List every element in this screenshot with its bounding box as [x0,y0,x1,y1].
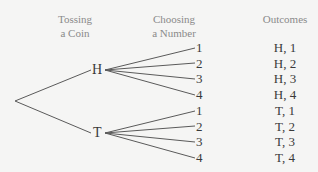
header-stage2-line2: a Number [146,26,202,40]
header-stage1-line1: Tossing [52,12,98,26]
outcome-h-4: H, 4 [260,87,310,102]
branch-root-to-h [15,70,91,101]
tree-diagram: Tossing a Coin Choosing a Number Outcome… [0,0,318,172]
branch-h-to-3 [105,70,195,79]
outcome-t-4: T, 4 [260,150,310,165]
number-t-1: 1 [196,103,203,118]
header-tossing-a-coin: Tossing a Coin [52,12,98,40]
node-heads: H [92,62,102,78]
header-choosing-a-number: Choosing a Number [146,12,202,40]
branch-t-to-4 [105,133,195,158]
branch-h-to-4 [105,70,195,95]
outcome-t-3: T, 3 [260,134,310,149]
header-stage2-line1: Choosing [146,12,202,26]
outcome-t-1: T, 1 [260,103,310,118]
header-outcomes: Outcomes [258,12,312,26]
number-h-4: 4 [196,87,203,102]
number-t-2: 2 [196,119,203,134]
branch-root-to-t [15,101,91,133]
branch-t-to-3 [105,133,195,142]
node-tails: T [93,125,102,141]
number-h-3: 3 [196,71,203,86]
number-h-1: 1 [196,40,203,55]
outcome-h-3: H, 3 [260,71,310,86]
outcome-h-2: H, 2 [260,56,310,71]
number-t-3: 3 [196,134,203,149]
header-stage1-line2: a Coin [52,26,98,40]
outcome-t-2: T, 2 [260,119,310,134]
number-t-4: 4 [196,150,203,165]
outcome-h-1: H, 1 [260,40,310,55]
number-h-2: 2 [196,56,203,71]
